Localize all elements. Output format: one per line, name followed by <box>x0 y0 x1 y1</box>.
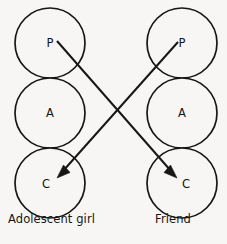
right-adult-letter: A <box>178 106 186 120</box>
diagram-canvas: P A C P A C <box>0 0 227 244</box>
left-child-letter: C <box>42 177 50 191</box>
left-parent-letter: P <box>47 36 54 50</box>
right-column-group: P A C <box>147 8 217 218</box>
ego-state-diagram-figure: P A C P A C Adolescent girl Friend <box>0 0 227 244</box>
left-column-group: P A C <box>15 8 85 218</box>
left-adult-letter: A <box>46 106 54 120</box>
right-child-letter: C <box>182 177 190 191</box>
right-parent-letter: P <box>179 36 186 50</box>
caption-adolescent-girl: Adolescent girl <box>8 212 95 226</box>
caption-friend: Friend <box>155 212 191 226</box>
